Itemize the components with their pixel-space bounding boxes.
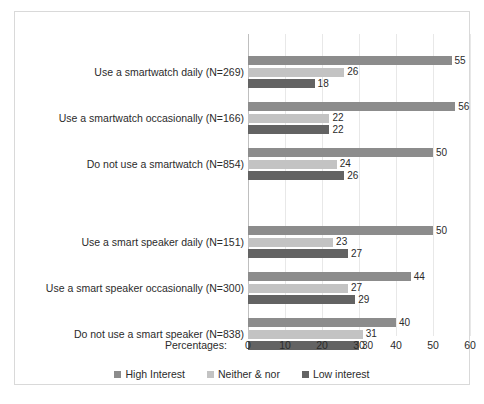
legend-item-1[interactable]: Neither & nor bbox=[207, 369, 280, 380]
x-tick-label: 40 bbox=[390, 340, 402, 351]
legend-item-0[interactable]: High Interest bbox=[114, 369, 185, 380]
category-label: Use a smartwatch daily (N=269) bbox=[94, 67, 244, 78]
bar-row: 22 bbox=[248, 125, 470, 134]
bar-value-label: 55 bbox=[455, 56, 466, 66]
x-axis-ticks: 0102030405060 bbox=[248, 338, 470, 354]
x-tick-label: 10 bbox=[279, 340, 291, 351]
legend-swatch-icon bbox=[302, 371, 309, 378]
bar-row: 29 bbox=[248, 295, 470, 304]
bar-0 bbox=[248, 102, 455, 111]
bar-2 bbox=[248, 249, 348, 258]
category-axis-labels: Use a smartwatch daily (N=269)Use a smar… bbox=[31, 34, 244, 336]
category-label: Use a smart speaker occasionally (N=300) bbox=[46, 283, 244, 294]
bar-value-label: 40 bbox=[399, 318, 410, 328]
x-tick-label: 30 bbox=[353, 340, 365, 351]
bar-row: 22 bbox=[248, 114, 470, 123]
bar-row: 55 bbox=[248, 56, 470, 65]
bar-1 bbox=[248, 160, 337, 169]
bar-2 bbox=[248, 171, 344, 180]
bar-1 bbox=[248, 284, 348, 293]
bar-row: 44 bbox=[248, 272, 470, 281]
bar-row: 27 bbox=[248, 284, 470, 293]
bar-value-label: 50 bbox=[436, 148, 447, 158]
bar-row: 26 bbox=[248, 171, 470, 180]
bar-1 bbox=[248, 238, 333, 247]
bar-row: 26 bbox=[248, 68, 470, 77]
bar-1 bbox=[248, 114, 329, 123]
bar-row: 50 bbox=[248, 226, 470, 235]
x-tick-label: 60 bbox=[464, 340, 476, 351]
bar-0 bbox=[248, 272, 411, 281]
bar-row: 18 bbox=[248, 79, 470, 88]
category-label: Use a smartwatch occasionally (N=166) bbox=[59, 113, 244, 124]
x-tick-label: 20 bbox=[316, 340, 328, 351]
category-label: Do not use a smart speaker (N=838) bbox=[74, 329, 244, 340]
category-label: Use a smart speaker daily (N=151) bbox=[81, 237, 244, 248]
bar-value-label: 29 bbox=[358, 295, 369, 305]
bar-0 bbox=[248, 318, 396, 327]
chart-legend: High InterestNeither & norLow interest bbox=[15, 369, 469, 380]
bar-row: 56 bbox=[248, 102, 470, 111]
category-label: Do not use a smartwatch (N=854) bbox=[87, 159, 244, 170]
bar-value-label: 22 bbox=[332, 125, 343, 135]
bar-row: 27 bbox=[248, 249, 470, 258]
x-tick-label: 0 bbox=[245, 340, 251, 351]
bar-2 bbox=[248, 79, 315, 88]
legend-label: Neither & nor bbox=[218, 369, 280, 380]
legend-label: High Interest bbox=[125, 369, 185, 380]
bar-row: 40 bbox=[248, 318, 470, 327]
bar-1 bbox=[248, 68, 344, 77]
bar-value-label: 23 bbox=[336, 237, 347, 247]
bar-2 bbox=[248, 295, 355, 304]
x-axis-title: Percentages: bbox=[165, 340, 227, 351]
bar-0 bbox=[248, 148, 433, 157]
bar-row: 50 bbox=[248, 148, 470, 157]
bar-value-label: 26 bbox=[347, 67, 358, 77]
legend-label: Low interest bbox=[313, 369, 370, 380]
bar-value-label: 26 bbox=[347, 171, 358, 181]
gridline bbox=[470, 34, 471, 336]
legend-swatch-icon bbox=[207, 371, 214, 378]
bar-value-label: 18 bbox=[318, 79, 329, 89]
bar-0 bbox=[248, 226, 433, 235]
plot-area: 552618562222502426502327442729403130 bbox=[248, 34, 470, 336]
bar-row: 24 bbox=[248, 160, 470, 169]
chart-frame: 552618562222502426502327442729403130 Use… bbox=[14, 11, 470, 385]
bar-value-label: 56 bbox=[458, 102, 469, 112]
legend-swatch-icon bbox=[114, 371, 121, 378]
legend-item-2[interactable]: Low interest bbox=[302, 369, 370, 380]
bar-value-label: 27 bbox=[351, 249, 362, 259]
bar-value-label: 44 bbox=[414, 272, 425, 282]
bar-value-label: 50 bbox=[436, 226, 447, 236]
x-tick-label: 50 bbox=[427, 340, 439, 351]
bar-value-label: 22 bbox=[332, 113, 343, 123]
bar-row: 23 bbox=[248, 238, 470, 247]
bar-0 bbox=[248, 56, 452, 65]
bar-value-label: 27 bbox=[351, 283, 362, 293]
bar-2 bbox=[248, 125, 329, 134]
bar-value-label: 24 bbox=[340, 159, 351, 169]
